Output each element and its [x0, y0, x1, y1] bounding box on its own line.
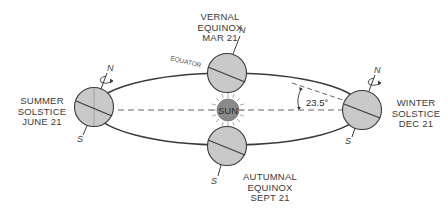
autumnal-date: SEPT 21 [230, 193, 310, 204]
label-winter-solstice: WINTER SOLSTICE DEC 21 [384, 98, 448, 130]
label-autumnal-equinox: AUTUMNAL EQUINOX SEPT 21 [230, 172, 310, 204]
tilt-angle-arrow-icon [297, 87, 303, 110]
globe-vernal-equinox [208, 36, 247, 93]
equator-label: EQUATOR [170, 54, 203, 69]
vernal-date: MAR 21 [180, 33, 260, 44]
label-vernal-equinox: VERNAL EQUINOX MAR 21 [180, 12, 260, 44]
globe-winter-solstice [343, 75, 382, 137]
vernal-name: VERNAL [180, 12, 260, 23]
winter-date: DEC 21 [384, 119, 448, 130]
summer-date: JUNE 21 [0, 117, 84, 128]
rotation-arrow-icon-summer [100, 76, 113, 83]
rotation-arrow-icon-winter [368, 78, 381, 85]
north-label-summer: N [107, 63, 114, 73]
autumnal-name: AUTUMNAL [230, 172, 310, 183]
summer-name: SUMMER [0, 96, 84, 107]
winter-name: WINTER [384, 98, 448, 109]
label-summer-solstice: SUMMER SOLSTICE JUNE 21 [0, 96, 84, 128]
south-label-winter: S [345, 136, 351, 146]
globe-autumnal-equinox [208, 127, 247, 177]
south-label-autumnal: S [211, 176, 217, 186]
sun-label: SUN [218, 105, 238, 116]
north-label-winter: N [374, 65, 381, 75]
tilt-angle-label: 23.5° [306, 97, 328, 108]
south-label-summer: S [77, 134, 83, 144]
